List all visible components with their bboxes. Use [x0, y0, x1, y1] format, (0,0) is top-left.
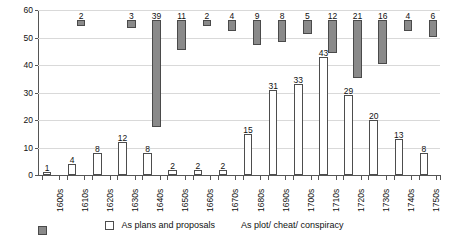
x-tick-mark: [343, 175, 344, 180]
bar-value-label: 1: [45, 163, 50, 173]
y-tick-label-20: 20: [24, 116, 33, 124]
bar-value-label: 33: [294, 75, 303, 85]
y-tick-mark-20: [35, 120, 38, 121]
legend-label-plans: As plans and proposals: [121, 220, 215, 230]
bar-value-label: 2: [79, 11, 84, 21]
bar-chart: Number of titles 0102030405060 142812383…: [0, 0, 449, 239]
x-tick-mark: [268, 175, 269, 180]
bar-value-label: 6: [431, 11, 436, 21]
bar-group: 22: [190, 10, 215, 175]
bar-value-label: 16: [378, 11, 387, 21]
x-tick-label-1610s: 1610s: [80, 178, 90, 212]
bar-value-label: 4: [405, 11, 410, 21]
x-tick-mark: [243, 175, 244, 180]
x-axis-labels: 1600s1610s1620s1630s1640s1650s1660s1670s…: [38, 181, 440, 213]
y-tick-label-30: 30: [24, 89, 33, 97]
x-tick-label-1730s: 1730s: [381, 178, 391, 212]
bar: 15: [244, 134, 252, 175]
bar-value-label: 2: [170, 161, 175, 171]
bar: 21: [353, 20, 361, 78]
bar: 31: [269, 90, 277, 175]
bar: 16: [378, 20, 386, 64]
bar-value-label: 20: [369, 111, 378, 121]
bar: 6: [429, 20, 437, 37]
bar-group: 24: [215, 10, 240, 175]
legend-label-plot: As plot/ cheat/ conspiracy: [241, 220, 344, 230]
bar-value-label: 3: [129, 11, 134, 21]
bar-groups: 1428123839211222415931833543122921201613…: [39, 10, 440, 175]
y-tick-mark-50: [35, 38, 38, 39]
bar-value-label: 2: [204, 11, 209, 21]
x-tick-mark: [318, 175, 319, 180]
bar-group: 4312: [315, 10, 340, 175]
bar: 8: [143, 153, 151, 175]
bar: 3: [127, 20, 135, 28]
plot-area: 0102030405060 14281238392112224159318335…: [38, 10, 440, 175]
bar-group: 1: [39, 10, 64, 175]
y-tick-label-50: 50: [24, 34, 33, 42]
y-tick-mark-10: [35, 148, 38, 149]
legend-item-plans: As plans and proposals: [105, 220, 215, 230]
x-tick-label-1640s: 1640s: [155, 178, 165, 212]
bar: 33: [294, 84, 302, 175]
bar-group: 42: [64, 10, 89, 175]
x-tick-mark: [394, 175, 395, 180]
y-tick-mark-60: [35, 10, 38, 11]
x-tick-mark: [67, 175, 68, 180]
bar-value-label: 2: [195, 161, 200, 171]
bar: 39: [152, 20, 160, 127]
bar-group: 318: [265, 10, 290, 175]
x-tick-label-1650s: 1650s: [180, 178, 190, 212]
bar: 20: [369, 120, 377, 175]
bar: 43: [319, 57, 327, 175]
bar: 2: [77, 20, 85, 26]
y-tick-mark-30: [35, 93, 38, 94]
bar-group: 335: [290, 10, 315, 175]
x-tick-label-1710s: 1710s: [331, 178, 341, 212]
bar: 29: [344, 95, 352, 175]
bar-value-label: 21: [353, 11, 362, 21]
x-tick-label-1700s: 1700s: [306, 178, 316, 212]
white-square-icon: [105, 221, 114, 230]
bar-group: 86: [416, 10, 441, 175]
bar: 4: [68, 164, 76, 175]
bar: 5: [303, 20, 311, 34]
bar-value-label: 15: [243, 125, 252, 135]
bar-group: 134: [391, 10, 416, 175]
x-tick-label-1660s: 1660s: [205, 178, 215, 212]
bar: 11: [177, 20, 185, 50]
bar: 2: [203, 20, 211, 26]
bar-value-label: 12: [118, 133, 127, 143]
x-tick-label-1750s: 1750s: [431, 178, 441, 212]
x-tick-label-1670s: 1670s: [230, 178, 240, 212]
bar-group: 839: [140, 10, 165, 175]
bar-value-label: 2: [221, 161, 226, 171]
bar-value-label: 9: [255, 11, 260, 21]
bar-group: 2921: [341, 10, 366, 175]
x-tick-mark: [193, 175, 194, 180]
gray-square-icon: [38, 226, 47, 235]
bar: 12: [118, 142, 126, 175]
bar-value-label: 8: [422, 144, 427, 154]
x-tick-mark: [42, 175, 43, 180]
y-tick-label-10: 10: [24, 144, 33, 152]
bar-group: 159: [240, 10, 265, 175]
bar-value-label: 43: [319, 48, 328, 58]
bar-group: 123: [114, 10, 139, 175]
bar: 8: [420, 153, 428, 175]
bar-value-label: 8: [145, 144, 150, 154]
bar-group: 2016: [366, 10, 391, 175]
bar-group: 211: [165, 10, 190, 175]
x-tick-mark: [117, 175, 118, 180]
y-tick-label-40: 40: [24, 61, 33, 69]
legend-item-plot: As plot/ cheat/ conspiracy: [241, 220, 344, 230]
bar: 9: [253, 20, 261, 45]
bar-value-label: 39: [152, 11, 161, 21]
x-tick-label-1600s: 1600s: [55, 178, 65, 212]
bar-value-label: 4: [230, 11, 235, 21]
y-tick-label-60: 60: [24, 6, 33, 14]
x-tick-mark: [218, 175, 219, 180]
x-tick-label-1630s: 1630s: [130, 178, 140, 212]
bar: 8: [278, 20, 286, 42]
bar-value-label: 11: [177, 11, 186, 21]
